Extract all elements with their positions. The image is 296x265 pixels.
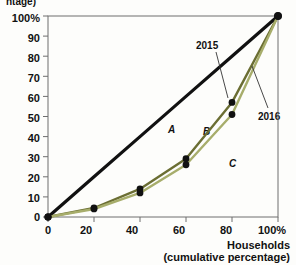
leader-line-2015 <box>216 52 228 98</box>
plot-canvas <box>0 0 296 265</box>
data-point <box>183 161 190 168</box>
data-point <box>229 99 236 106</box>
series-line-line-of-equality <box>48 16 278 217</box>
data-point <box>91 206 98 213</box>
data-point <box>229 111 236 118</box>
annotation-leader-lines <box>216 52 268 108</box>
data-point <box>274 12 282 20</box>
y-tick-marks <box>43 16 48 217</box>
data-point <box>137 189 144 196</box>
series-group <box>48 16 278 217</box>
data-point <box>44 213 51 220</box>
x-tick-marks <box>48 217 278 222</box>
lorenz-curve-chart: ntage) 100% 90 80 70 60 50 40 30 20 10 0… <box>0 0 296 265</box>
data-point <box>183 155 190 162</box>
leader-line-2016 <box>252 66 268 108</box>
